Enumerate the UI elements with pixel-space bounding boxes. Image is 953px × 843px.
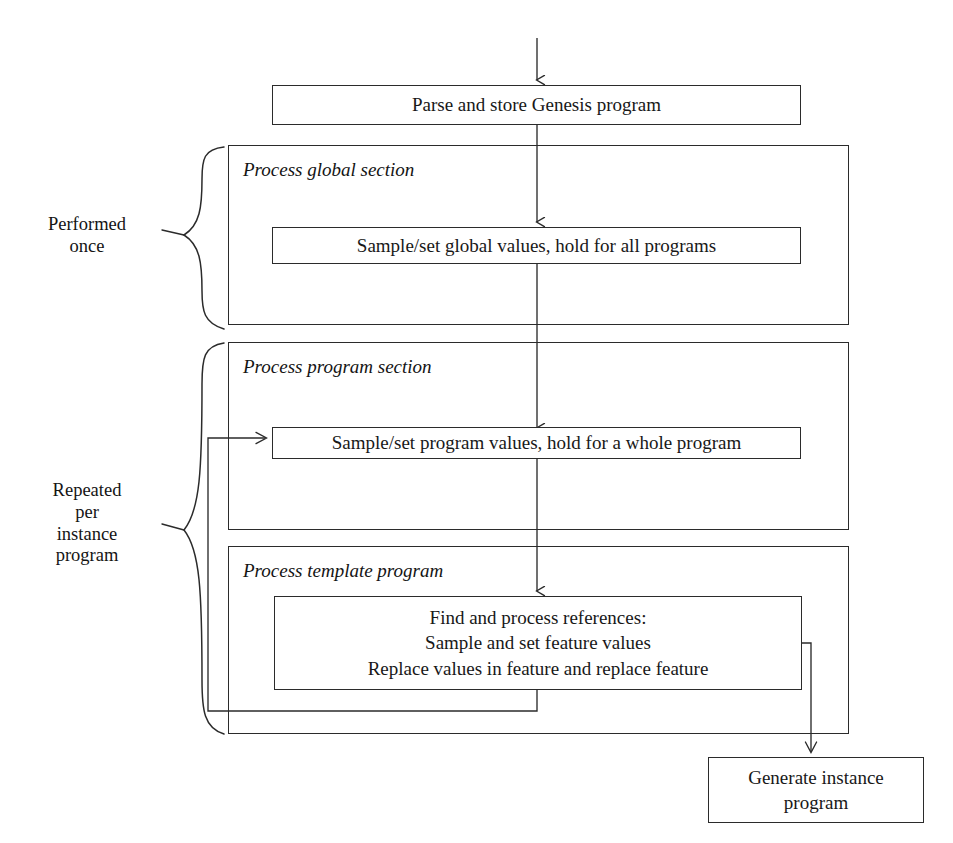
node-generate-instance-program[interactable]: Generate instance program	[708, 757, 924, 823]
brace-performed-once-icon	[158, 145, 226, 331]
brace-label-performed-once: Performed once	[22, 214, 152, 258]
node-label: Find and process references: Sample and …	[368, 605, 709, 680]
brace-label-repeated-per-instance: Repeated per instance program	[22, 480, 152, 567]
section-title-global: Process global section	[243, 159, 414, 181]
flowchart-canvas: Process global section Process program s…	[0, 0, 953, 843]
node-sample-set-global-values[interactable]: Sample/set global values, hold for all p…	[272, 227, 801, 264]
node-sample-set-program-values[interactable]: Sample/set program values, hold for a wh…	[272, 427, 801, 459]
node-label: Sample/set global values, hold for all p…	[357, 233, 716, 258]
node-label: Parse and store Genesis program	[412, 92, 661, 117]
node-label: Sample/set program values, hold for a wh…	[332, 430, 741, 455]
section-title-template: Process template program	[243, 560, 443, 582]
node-find-and-process-references[interactable]: Find and process references: Sample and …	[274, 596, 802, 690]
brace-repeated-per-instance-icon	[158, 340, 226, 738]
node-parse-and-store-genesis-program[interactable]: Parse and store Genesis program	[272, 85, 801, 125]
section-title-program: Process program section	[243, 356, 432, 378]
node-label: Generate instance program	[748, 765, 884, 815]
